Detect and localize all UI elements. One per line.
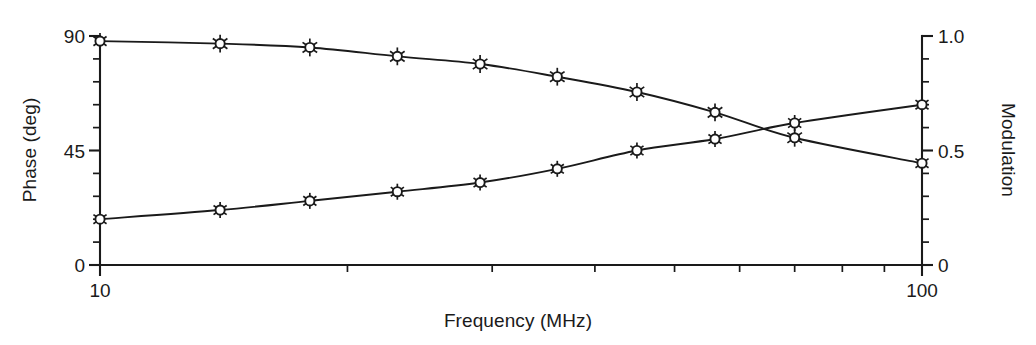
data-point <box>213 35 228 53</box>
figure-root: 90 45 0 1.0 0.5 0 10 100 Frequency (MHz)… <box>0 0 1036 345</box>
marker-open-circle <box>632 146 641 155</box>
frequency-domain-plot: 90 45 0 1.0 0.5 0 10 100 Frequency (MHz)… <box>0 0 1036 345</box>
data-point <box>473 55 488 73</box>
data-point <box>787 129 802 147</box>
y-tick-label-45: 45 <box>64 141 85 162</box>
y-tick-label-90: 90 <box>64 26 85 47</box>
series-line <box>100 41 922 163</box>
marker-open-circle <box>305 43 314 52</box>
marker-open-circle <box>393 52 402 61</box>
marker-open-circle <box>95 215 104 224</box>
data-series-layer <box>93 33 928 227</box>
data-point <box>708 131 721 147</box>
series-modulation <box>93 97 928 228</box>
data-point <box>93 211 106 227</box>
marker-open-circle <box>393 187 402 196</box>
marker-open-circle <box>710 108 719 117</box>
data-point <box>630 142 643 158</box>
marker-open-circle <box>917 159 926 168</box>
data-point <box>788 115 801 131</box>
marker-open-circle <box>475 59 484 68</box>
marker-open-circle <box>475 178 484 187</box>
marker-open-circle <box>632 87 641 96</box>
x-tick-label-10: 10 <box>89 280 110 301</box>
y-axis-left-ticks <box>89 36 100 265</box>
x-axis-ticks <box>100 265 922 276</box>
marker-open-circle <box>305 196 314 205</box>
marker-open-circle <box>216 39 225 48</box>
marker-open-circle <box>917 100 926 109</box>
data-point <box>630 83 645 101</box>
data-point <box>474 175 487 191</box>
data-point <box>303 39 318 57</box>
data-point <box>915 155 928 171</box>
y2-tick-label-0: 0 <box>938 255 949 276</box>
data-point <box>550 68 565 86</box>
data-point <box>214 202 227 218</box>
y2-tick-label-half: 0.5 <box>938 141 964 162</box>
axes-group <box>100 36 922 265</box>
marker-open-circle <box>790 118 799 127</box>
y-tick-label-0: 0 <box>74 255 85 276</box>
marker-open-circle <box>553 72 562 81</box>
marker-open-circle <box>790 133 799 142</box>
data-point <box>915 97 928 113</box>
marker-open-circle <box>216 205 225 214</box>
x-tick-label-100: 100 <box>906 280 938 301</box>
tick-label-group: 90 45 0 1.0 0.5 0 10 100 <box>64 26 965 301</box>
marker-open-circle <box>553 164 562 173</box>
y2-tick-label-1: 1.0 <box>938 26 964 47</box>
marker-open-circle <box>710 134 719 143</box>
y-axis-right-ticks <box>922 36 933 265</box>
marker-open-circle <box>95 36 104 45</box>
y-axis-left-title: Phase (deg) <box>19 98 40 203</box>
data-point <box>303 193 316 209</box>
data-point <box>708 103 723 121</box>
y-axis-right-title: Modulation <box>998 103 1019 197</box>
data-point <box>391 184 404 200</box>
data-point <box>390 47 405 65</box>
series-phase <box>93 33 928 171</box>
x-axis-title: Frequency (MHz) <box>444 310 592 331</box>
data-point <box>551 161 564 177</box>
